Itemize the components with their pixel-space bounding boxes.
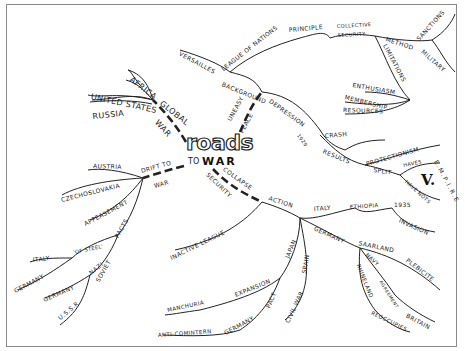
label-italy-action: ITALY xyxy=(314,205,332,212)
center-title-war: WAR xyxy=(202,155,237,168)
center-title-to: TO xyxy=(188,157,199,166)
label-1935: 1935 xyxy=(394,202,411,208)
center-title-roads: roads xyxy=(186,132,253,154)
label-austria: AUSTRIA xyxy=(93,163,122,170)
label-versus: V. xyxy=(421,171,435,189)
